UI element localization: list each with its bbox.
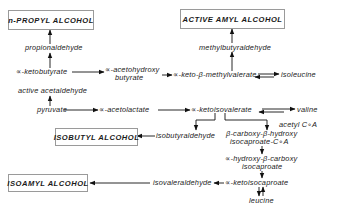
acetolactate-label: ∝-acetolactate bbox=[99, 106, 149, 115]
leucine-label: leucine bbox=[249, 197, 274, 206]
acetohydroxy-label-line2: butyrate bbox=[115, 74, 143, 83]
arrow-ketoisovalerate-to-isobutyraldehyde bbox=[196, 113, 215, 130]
valine-label: valine bbox=[297, 106, 318, 115]
carboxy-hydroxy-label-line2: isocaproate-C∘A bbox=[230, 138, 289, 147]
isobutyraldehyde-label: isobutyraldehyde bbox=[156, 132, 215, 141]
active-acetaldehyde-label: active acetaldehyde bbox=[18, 87, 87, 96]
methylbutyraldehyde-label: methylbutyraldehyde bbox=[199, 44, 271, 53]
active-amyl-alcohol-label: ACTIVE AMYL ALCOHOL bbox=[183, 15, 283, 24]
arrow-ketoisovalerate-to-carboxyhydroxy bbox=[225, 113, 267, 130]
propionaldehyde-label: propionaldehyde bbox=[25, 44, 83, 53]
n-propyl-alcohol-box: n-PROPYL ALCOHOL bbox=[8, 10, 94, 30]
ketobutyrate-label: ∝-ketobutyrate bbox=[16, 68, 67, 77]
isobutyl-alcohol-label: ISOBUTYL ALCOHOL bbox=[54, 133, 140, 142]
isoamyl-alcohol-label: ISOAMYL ALCOHOL bbox=[7, 179, 88, 188]
n-propyl-alcohol-label: n-PROPYL ALCOHOL bbox=[8, 16, 94, 25]
isovaleraldehyde-label: isovaleraldehyde bbox=[153, 179, 212, 188]
isoleucine-label: isoleucine bbox=[281, 71, 316, 80]
keto-methylvalerate-label: ∝-keto-β-methylvalerate bbox=[173, 71, 257, 80]
active-amyl-alcohol-box: ACTIVE AMYL ALCOHOL bbox=[180, 9, 285, 29]
isobutyl-alcohol-box: ISOBUTYL ALCOHOL bbox=[55, 128, 138, 146]
hydroxy-carboxy-label-line2: isocaproate bbox=[242, 163, 282, 172]
ketoisovalerate-label: ∝-ketoisovalerate bbox=[191, 106, 252, 115]
pyruvate-label: pyruvate bbox=[37, 106, 67, 115]
ketoisocaproate-label: ∝-ketoisocaproate bbox=[225, 179, 288, 188]
isoamyl-alcohol-box: ISOAMYL ALCOHOL bbox=[8, 174, 88, 192]
